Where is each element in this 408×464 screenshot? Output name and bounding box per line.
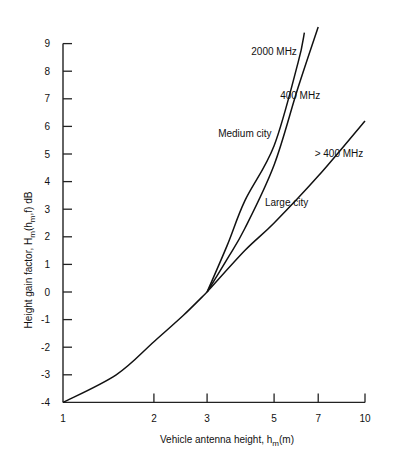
annotation-label: 2000 MHz — [251, 46, 297, 57]
y-tick-label: 8 — [44, 66, 50, 77]
y-tick-label: -4 — [41, 397, 50, 408]
y-tick-label: 5 — [44, 149, 50, 160]
y-tick-label: 1 — [44, 259, 50, 270]
x-tick-label: 2 — [151, 413, 157, 424]
y-tick-label: 3 — [44, 204, 50, 215]
curve-series-1 — [207, 33, 304, 292]
y-tick-label: -3 — [41, 369, 50, 380]
y-tick-label: 4 — [44, 176, 50, 187]
y-tick-label: 7 — [44, 93, 50, 104]
annotations: 2000 MHz400 MHzMedium city> 400 MHzLarge… — [218, 46, 363, 209]
curves — [63, 27, 365, 402]
y-tick-label: 2 — [44, 231, 50, 242]
curve-series-0 — [63, 292, 207, 402]
y-tick-label: 0 — [44, 287, 50, 298]
y-tick-label: 6 — [44, 121, 50, 132]
x-tick-label: 1 — [60, 413, 66, 424]
annotation-label: Large city — [265, 197, 308, 208]
y-axis-title: Height gain factor, Hm(hm,f) dB — [23, 191, 37, 328]
y-tick-label: -1 — [41, 314, 50, 325]
height-gain-chart: -4-3-2-101234567891235710 2000 MHz400 MH… — [0, 0, 408, 464]
x-tick-label: 3 — [204, 413, 210, 424]
annotation-label: Medium city — [218, 128, 271, 139]
x-axis-title: Vehicle antenna height, hm(m) — [160, 434, 294, 448]
y-tick-label: 9 — [44, 38, 50, 49]
axes: -4-3-2-101234567891235710 — [41, 38, 371, 424]
x-tick-label: 5 — [271, 413, 277, 424]
x-tick-label: 10 — [359, 413, 371, 424]
x-tick-label: 7 — [315, 413, 321, 424]
annotation-label: 400 MHz — [280, 90, 320, 101]
y-tick-label: -2 — [41, 342, 50, 353]
annotation-label: > 400 MHz — [315, 148, 364, 159]
